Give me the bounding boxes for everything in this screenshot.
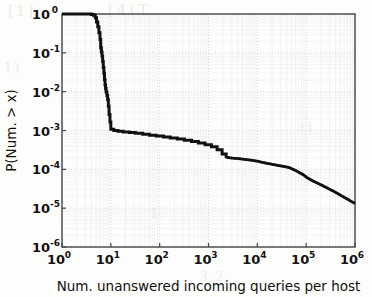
grid-layer	[62, 14, 355, 247]
x-tick-exponent-5: 5	[309, 250, 315, 260]
x-tick-label-5: 10	[291, 252, 309, 267]
x-tick-exponent-0: 0	[65, 250, 71, 260]
x-tick-label-3: 10	[193, 252, 211, 267]
x-tick-label-6: 10	[340, 252, 358, 267]
x-tick-exponent-6: 6	[358, 250, 364, 260]
x-tick-exponent-1: 1	[114, 250, 120, 260]
x-axis-title: Num. unanswered incoming queries per hos…	[57, 278, 361, 294]
y-tick-label-4: 10	[32, 162, 50, 177]
y-tick-exponent-2: -2	[50, 83, 60, 93]
x-tick-label-2: 10	[145, 252, 163, 267]
y-tick-label-0: 10	[32, 7, 50, 22]
y-tick-exponent-5: -5	[50, 199, 60, 209]
chart-figure: [1] [4(T 1) 1. () 3.2. 10010110210310410…	[0, 0, 372, 297]
y-tick-exponent-1: -1	[50, 44, 60, 54]
y-tick-label-3: 10	[32, 124, 50, 139]
y-tick-exponent-0: 0	[52, 5, 58, 15]
y-tick-label-1: 10	[32, 46, 50, 61]
y-tick-label-6: 10	[32, 240, 50, 255]
ccdf-plot: 100101102103104105106 10010-110-210-310-…	[0, 0, 372, 297]
x-tick-exponent-3: 3	[211, 250, 217, 260]
x-tick-label-1: 10	[96, 252, 114, 267]
data-series-layer	[62, 14, 354, 203]
y-tick-label-2: 10	[32, 85, 50, 100]
y-tick-exponent-3: -3	[50, 122, 60, 132]
y-tick-labels: 10010-110-210-310-410-510-6	[32, 5, 60, 255]
x-tick-labels: 100101102103104105106	[47, 250, 364, 267]
x-tick-exponent-2: 2	[163, 250, 169, 260]
y-tick-exponent-6: -6	[50, 238, 60, 248]
y-axis-title: P(Num. > x)	[3, 89, 19, 172]
y-tick-label-5: 10	[32, 201, 50, 216]
y-tick-exponent-4: -4	[50, 160, 60, 170]
x-tick-exponent-4: 4	[260, 250, 266, 260]
x-tick-label-4: 10	[242, 252, 260, 267]
